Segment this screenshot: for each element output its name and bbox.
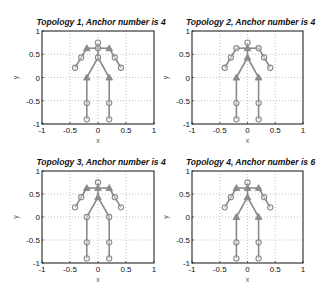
node-circle-marker — [95, 40, 100, 45]
x-tick-label: 1 — [301, 126, 306, 135]
x-tick-label: 1 — [152, 265, 157, 274]
node-circle-marker — [234, 256, 239, 261]
node-circle-marker — [84, 214, 89, 219]
subplot-title: Topology 1, Anchor number is 4 — [36, 17, 166, 27]
figure: -1-0.500.5110.50-0.5-1xyTopology 1, Anch… — [0, 0, 326, 304]
node-circle-marker — [95, 46, 100, 51]
node-circle-marker — [79, 55, 84, 60]
y-tick-label: 0.5 — [29, 190, 41, 199]
skeleton-edge — [248, 197, 259, 217]
node-circle-marker — [84, 256, 89, 261]
node-circle-marker — [222, 65, 227, 70]
node-circle-marker — [107, 256, 112, 261]
x-tick-label: 0 — [96, 126, 101, 135]
anchor-triangle-marker — [244, 54, 251, 60]
y-tick-label: -0.5 — [26, 236, 40, 245]
subplot-2: -1-0.500.5110.50-0.5-1xyTopology 2, Anch… — [162, 17, 315, 144]
y-tick-label: -1 — [183, 120, 191, 129]
y-tick-label: 0 — [186, 74, 191, 83]
node-circle-marker — [234, 240, 239, 245]
x-tick-label: 0.5 — [270, 126, 282, 135]
node-circle-marker — [234, 100, 239, 105]
node-circle-marker — [107, 214, 112, 219]
x-axis-label: x — [246, 276, 250, 283]
skeleton-edge — [87, 197, 98, 217]
x-axis-label: x — [96, 276, 100, 283]
y-tick-label: -0.5 — [176, 236, 190, 245]
y-tick-label: 0 — [36, 213, 41, 222]
x-tick-label: -0.5 — [213, 265, 227, 274]
y-tick-label: -1 — [33, 120, 41, 129]
skeleton-edge — [98, 58, 109, 78]
subplot-title: Topology 3, Anchor number is 4 — [36, 157, 166, 167]
node-circle-marker — [72, 65, 77, 70]
x-tick-label: -0.5 — [63, 265, 77, 274]
node-circle-marker — [256, 256, 261, 261]
node-circle-marker — [112, 55, 117, 60]
node-circle-marker — [234, 117, 239, 122]
y-axis-label: y — [12, 75, 20, 79]
node-circle-marker — [84, 117, 89, 122]
x-tick-label: 1 — [301, 265, 306, 274]
y-tick-label: 1 — [186, 27, 191, 36]
anchor-triangle-marker — [233, 74, 240, 80]
x-tick-label: 0.5 — [120, 265, 132, 274]
node-circle-marker — [262, 195, 267, 200]
node-circle-marker — [107, 100, 112, 105]
x-tick-label: 0 — [245, 265, 250, 274]
node-circle-marker — [256, 117, 261, 122]
node-circle-marker — [84, 240, 89, 245]
y-tick-label: 0 — [36, 74, 41, 83]
y-tick-label: 0.5 — [179, 190, 191, 199]
y-tick-label: 1 — [186, 167, 191, 176]
node-circle-marker — [234, 46, 239, 51]
node-circle-marker — [256, 100, 261, 105]
node-circle-marker — [84, 100, 89, 105]
x-tick-label: 1 — [152, 126, 157, 135]
node-circle-marker — [256, 240, 261, 245]
node-circle-marker — [72, 205, 77, 210]
y-tick-label: -1 — [33, 259, 41, 268]
y-axis-label: y — [162, 215, 170, 219]
node-circle-marker — [228, 55, 233, 60]
subplot-3: -1-0.500.5110.50-0.5-1xyTopology 3, Anch… — [12, 157, 166, 283]
y-tick-label: 0.5 — [29, 50, 41, 59]
node-circle-marker — [107, 117, 112, 122]
subplot-4: -1-0.500.5110.50-0.5-1xyTopology 4, Anch… — [162, 157, 315, 283]
anchor-triangle-marker — [255, 214, 262, 220]
node-circle-marker — [118, 205, 123, 210]
y-tick-label: -0.5 — [176, 97, 190, 106]
subplot-title: Topology 2, Anchor number is 4 — [186, 17, 316, 27]
y-tick-label: -1 — [183, 259, 191, 268]
skeleton-edge — [236, 197, 247, 217]
anchor-triangle-marker — [244, 194, 251, 200]
subplot-1: -1-0.500.5110.50-0.5-1xyTopology 1, Anch… — [12, 17, 166, 144]
node-circle-marker — [222, 205, 227, 210]
node-circle-marker — [268, 205, 273, 210]
x-tick-label: 0.5 — [120, 126, 132, 135]
anchor-triangle-marker — [95, 194, 102, 200]
y-axis-label: y — [12, 215, 20, 219]
skeleton-edge — [98, 197, 109, 217]
x-tick-label: 0 — [245, 126, 250, 135]
anchor-triangle-marker — [106, 74, 113, 80]
y-tick-label: -0.5 — [26, 97, 40, 106]
subplot-title: Topology 4, Anchor number is 6 — [186, 157, 316, 167]
x-tick-label: -0.5 — [63, 126, 77, 135]
x-axis-label: x — [246, 137, 250, 144]
y-tick-label: 0 — [186, 213, 191, 222]
node-circle-marker — [256, 46, 261, 51]
x-tick-label: -0.5 — [213, 126, 227, 135]
node-circle-marker — [95, 55, 100, 60]
node-circle-marker — [268, 65, 273, 70]
anchor-triangle-marker — [233, 214, 240, 220]
skeleton-edge — [87, 58, 98, 78]
x-axis-label: x — [96, 137, 100, 144]
node-circle-marker — [262, 55, 267, 60]
x-tick-label: 0 — [96, 265, 101, 274]
x-tick-label: 0.5 — [270, 265, 282, 274]
node-circle-marker — [228, 195, 233, 200]
anchor-triangle-marker — [255, 74, 262, 80]
node-circle-marker — [118, 65, 123, 70]
y-tick-label: 0.5 — [179, 50, 191, 59]
